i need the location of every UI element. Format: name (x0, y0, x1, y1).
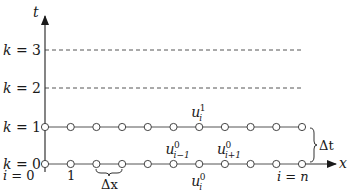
grid-node (41, 160, 48, 167)
grid-node (67, 160, 74, 167)
grid-node (221, 160, 228, 167)
svg-text:i+1: i+1 (225, 150, 241, 160)
t-axis-label: t (33, 4, 39, 20)
grid-node (196, 123, 203, 130)
dx-label: Δx (101, 177, 118, 192)
node-annotation: u1i (191, 103, 205, 123)
svg-text:i−1: i−1 (174, 150, 190, 160)
finite-difference-grid: t x k = 0k = 1k = 2k = 3 i = 0 1 i = n Δ… (0, 0, 352, 195)
grid-node (273, 160, 280, 167)
grid-node (41, 123, 48, 130)
grid-node (170, 123, 177, 130)
grid-node (119, 160, 126, 167)
index-label-in: i = n (277, 169, 309, 184)
node-annotation: u0i−1 (166, 140, 190, 160)
svg-text:0: 0 (225, 140, 231, 150)
grid-node (93, 160, 100, 167)
k-label-1: k = 1 (3, 119, 41, 135)
k-label-2: k = 2 (3, 80, 41, 96)
grid-node (67, 123, 74, 130)
svg-text:1: 1 (200, 103, 206, 113)
grid-node (298, 160, 305, 167)
svg-text:0: 0 (200, 172, 206, 182)
grid-node (247, 123, 254, 130)
k-labels: k = 0k = 1k = 2k = 3 (3, 42, 41, 172)
grid-node (196, 160, 203, 167)
svg-text:0: 0 (174, 140, 180, 150)
x-axis-label: x (339, 155, 347, 171)
grid-node (93, 123, 100, 130)
grid-node (119, 123, 126, 130)
grid-node (221, 123, 228, 130)
grid-node (144, 160, 151, 167)
dx-brace (96, 169, 122, 176)
node-annotation: u0i+1 (217, 140, 241, 160)
grid-node (247, 160, 254, 167)
grid-node (298, 123, 305, 130)
k-label-3: k = 3 (3, 42, 41, 58)
node-annotations: u1iu0i−1u0i+1u0i (166, 103, 242, 192)
grid-node (144, 123, 151, 130)
svg-text:i: i (199, 182, 202, 192)
grid-node (170, 160, 177, 167)
grid-node (273, 123, 280, 130)
node-annotation: u0i (191, 172, 206, 192)
dt-label: Δt (319, 138, 334, 153)
dt-brace (310, 128, 317, 162)
svg-text:i: i (199, 113, 202, 123)
index-label-i1: 1 (67, 168, 75, 183)
index-label-i0: i = 0 (3, 168, 35, 183)
dashed-time-levels (45, 50, 302, 88)
